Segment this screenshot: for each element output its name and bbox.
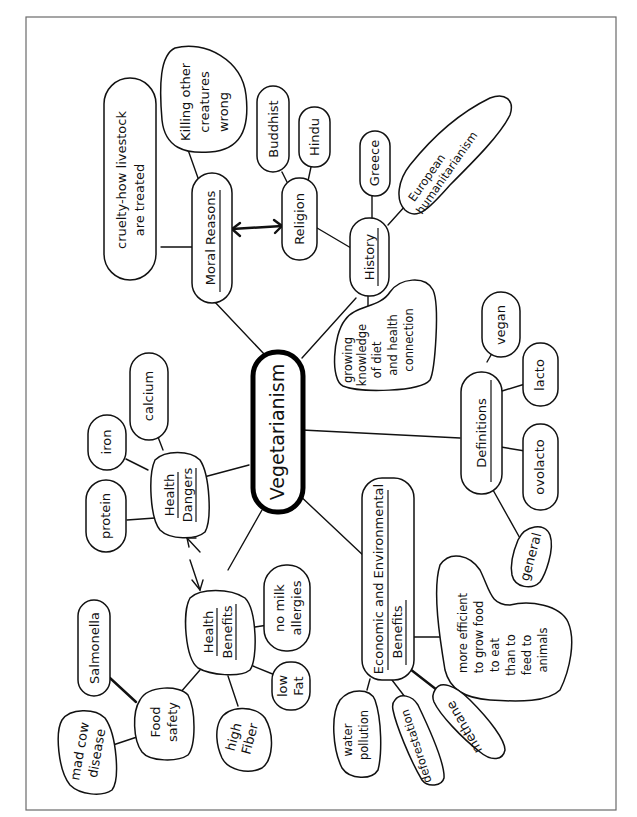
node-health-dangers-label-line1: Health [162, 474, 177, 517]
node-water-pollution[interactable]: water pollution [334, 691, 381, 777]
node-low-fat-label-line2: Fat [291, 676, 306, 695]
node-definitions-label: Definitions [474, 398, 489, 468]
node-food-safety[interactable]: Food safety [135, 688, 194, 760]
node-vegan[interactable]: vegan [482, 292, 520, 357]
node-greece-label: Greece [367, 140, 382, 186]
node-water-label-line2: pollution [357, 710, 371, 760]
node-salmonella[interactable]: Salmonella [78, 600, 110, 696]
node-hindu-label: Hindu [307, 118, 322, 156]
node-efficient-label-line4: than to [504, 634, 518, 675]
node-iron-label: iron [99, 430, 114, 455]
node-high-fiber[interactable]: high Fiber [217, 708, 272, 771]
node-moral-reasons[interactable]: Moral Reasons [192, 173, 232, 303]
node-buddhist-label: Buddhist [266, 100, 281, 157]
node-buddhist[interactable]: Buddhist [257, 86, 289, 172]
node-low-fat[interactable]: low Fat [272, 662, 310, 710]
node-ovolacto-label: ovolacto [532, 439, 547, 494]
node-no-milk-label-line1: no milk [272, 584, 287, 632]
node-water-label-line1: water [341, 723, 355, 756]
node-low-fat-label-line1: low [275, 675, 290, 698]
node-definitions[interactable]: Definitions [461, 372, 502, 494]
node-growing-label-line3: of diet [370, 341, 384, 378]
node-mad-cow-disease[interactable]: mad cow disease [58, 711, 116, 794]
node-lacto-label: lacto [532, 359, 547, 391]
node-ovolacto[interactable]: ovolacto [523, 424, 558, 510]
node-health-benefits-label-line2: Benefits [220, 605, 235, 658]
node-calcium-label: calcium [141, 371, 156, 421]
node-growing-label-line5: connection [402, 308, 416, 371]
node-greece[interactable]: Greece [360, 131, 390, 196]
node-food-safety-label-line2: safety [165, 702, 180, 742]
node-efficient-label-line2: to grow food [472, 601, 486, 674]
node-no-milk-allergies[interactable]: no milk allergies [264, 565, 310, 651]
node-efficient-label-line5: feed to [520, 635, 534, 676]
node-food-safety-label-line1: Food [148, 706, 163, 737]
node-vegetarianism-label: Vegetarianism [266, 364, 288, 501]
node-vegan-label: vegan [493, 305, 508, 345]
node-health-dangers[interactable]: Health Dangers [151, 453, 209, 538]
node-hindu[interactable]: Hindu [299, 107, 330, 167]
node-no-milk-label-line2: allergies [289, 580, 304, 635]
node-religion[interactable]: Religion [282, 178, 317, 260]
node-efficient-label-line3: to eat [488, 638, 502, 672]
node-calcium[interactable]: calcium [130, 353, 168, 440]
node-history-label: History [362, 234, 377, 281]
node-efficient-label-line1: more efficient [456, 592, 470, 673]
node-health-dangers-label-line2: Dangers [180, 467, 195, 522]
node-protein[interactable]: protein [86, 480, 126, 552]
node-cruelty-label-line1: cruelty-how livestock [114, 111, 129, 249]
node-lacto[interactable]: lacto [523, 343, 558, 406]
node-economic-label-line2: Benefits [390, 605, 405, 658]
node-salmonella-label: Salmonella [87, 612, 102, 684]
node-moral-reasons-label: Moral Reasons [203, 191, 218, 286]
node-killing-label-line3: wrong [216, 92, 231, 132]
node-killing-label-line2: creatures [197, 71, 212, 133]
node-efficient-label-line6: animals [536, 628, 550, 673]
node-economic-environmental[interactable]: Economic and Environmental Benefits [362, 478, 414, 680]
node-economic-label-line1: Economic and Environmental [371, 484, 386, 674]
node-health-benefits-label-line1: Health [201, 611, 216, 654]
node-killing-label-line1: Killing other [178, 62, 193, 141]
node-vegetarianism[interactable]: Vegetarianism [253, 352, 303, 512]
node-health-benefits[interactable]: Health Benefits [186, 591, 256, 675]
node-iron[interactable]: iron [88, 415, 126, 470]
node-history[interactable]: History [350, 218, 389, 296]
node-growing-label-line4: and health [386, 314, 400, 376]
node-religion-label: Religion [292, 193, 307, 245]
mind-map-canvas: Vegetarianism Moral Reasons cruelty-how … [0, 0, 637, 817]
node-cruelty-label-line2: are treated [132, 164, 147, 237]
node-cruelty[interactable]: cruelty-how livestock are treated [104, 78, 156, 280]
node-protein-label: protein [98, 493, 113, 539]
node-growing-label-line1: growing [341, 337, 355, 383]
node-growing-label-line2: knowledge [355, 324, 369, 386]
